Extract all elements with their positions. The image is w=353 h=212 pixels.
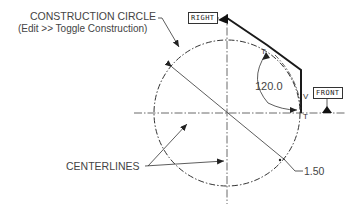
construction-hint-label: (Edit >> Toggle Construction) xyxy=(18,23,147,35)
diameter-leader xyxy=(283,158,303,171)
front-anchor-triangle xyxy=(322,106,332,113)
construction-circle-leader xyxy=(158,18,179,47)
right-anchor-triangle xyxy=(218,14,228,24)
angle-value[interactable]: 120.0 xyxy=(255,80,283,92)
tangent-constraint-bottom[interactable]: T xyxy=(303,112,308,121)
tangent-constraint-top[interactable]: T xyxy=(261,47,266,56)
front-view-label: FRONT xyxy=(313,87,343,99)
construction-circle-label: CONSTRUCTION CIRCLE xyxy=(30,10,156,22)
centerlines-label: CENTERLINES xyxy=(66,160,140,172)
vertical-constraint[interactable]: V xyxy=(303,92,308,101)
centerline-leader-2 xyxy=(145,161,224,166)
right-view-label: RIGHT xyxy=(188,12,218,24)
sketch-profile[interactable] xyxy=(227,18,301,113)
centerline-leader-1 xyxy=(148,124,187,166)
diameter-value[interactable]: 1.50 xyxy=(304,165,324,177)
